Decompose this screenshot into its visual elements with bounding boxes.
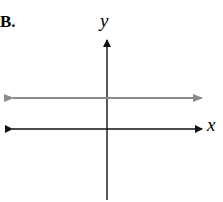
coordinate-graph [0, 0, 223, 202]
figure-label: B. [0, 12, 16, 32]
y-axis-label: y [100, 10, 108, 32]
x-axis-label: x [207, 114, 215, 136]
